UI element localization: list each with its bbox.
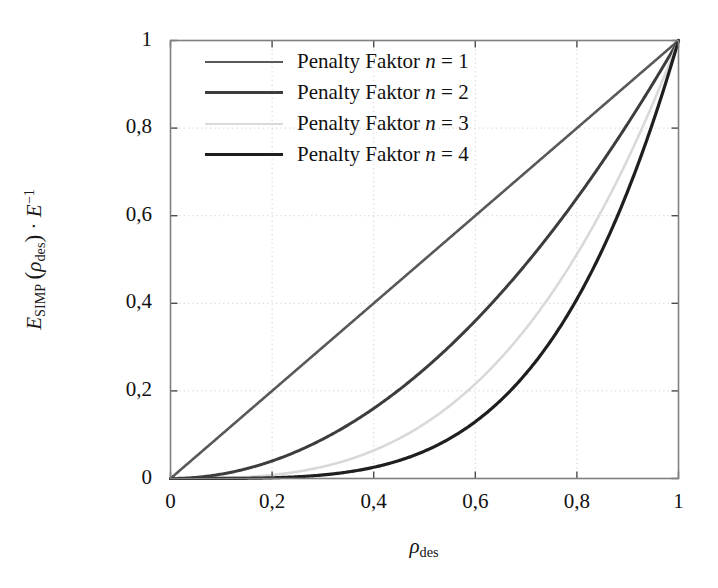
legend-line-swatch — [205, 91, 283, 94]
y-axis-open-paren: ( — [20, 271, 46, 279]
legend-item[interactable]: Penalty Faktor n = 3 — [205, 108, 535, 139]
y-tick-label: 1 — [90, 27, 152, 52]
y-tick-label: 0,2 — [90, 377, 152, 402]
legend-item-label: Penalty Faktor n = 4 — [297, 142, 469, 167]
x-tick-label: 1 — [644, 489, 714, 514]
x-axis-rho: ρ — [409, 534, 419, 558]
legend-item[interactable]: Penalty Faktor n = 1 — [205, 46, 535, 77]
figure-container: 00,20,40,60,81 00,20,40,60,81 ESIMP (ρde… — [0, 0, 718, 588]
legend-line-swatch — [205, 61, 283, 63]
legend-item[interactable]: Penalty Faktor n = 2 — [205, 77, 535, 108]
y-axis-title-text: ESIMP (ρdes) · E−1 — [20, 189, 49, 330]
y-axis-dot-operator: · — [22, 222, 46, 229]
y-tick-label: 0,8 — [90, 114, 152, 139]
y-axis-e-exponent: −1 — [20, 189, 36, 204]
x-tick-label: 0,6 — [440, 489, 510, 514]
x-axis-title: ρdes — [170, 534, 678, 561]
x-tick-label: 0,8 — [542, 489, 612, 514]
x-tick-label: 0 — [136, 489, 206, 514]
y-axis-title: ESIMP (ρdes) · E−1 — [6, 0, 62, 518]
x-tick-label: 0,2 — [237, 489, 307, 514]
legend-item-label: Penalty Faktor n = 3 — [297, 111, 469, 136]
y-axis-e-subscript: SIMP — [31, 283, 47, 316]
x-axis-rho-subscript: des — [420, 544, 439, 560]
legend-line-swatch — [205, 153, 283, 156]
y-axis-rho: ρ — [22, 261, 46, 271]
legend-item-label: Penalty Faktor n = 1 — [297, 49, 469, 74]
y-axis-e-simp: ESIMP — [22, 283, 46, 329]
y-axis-e: E — [22, 204, 46, 217]
y-tick-label: 0 — [90, 465, 152, 490]
legend-item-label: Penalty Faktor n = 2 — [297, 80, 469, 105]
y-tick-label: 0,6 — [90, 202, 152, 227]
x-tick-label: 0,4 — [339, 489, 409, 514]
legend: Penalty Faktor n = 1Penalty Faktor n = 2… — [205, 46, 535, 170]
y-axis-close-paren: ) — [20, 234, 46, 242]
legend-item[interactable]: Penalty Faktor n = 4 — [205, 139, 535, 170]
y-tick-label: 0,4 — [90, 289, 152, 314]
y-axis-rho-subscript: des — [31, 242, 47, 261]
legend-line-swatch — [205, 123, 283, 125]
